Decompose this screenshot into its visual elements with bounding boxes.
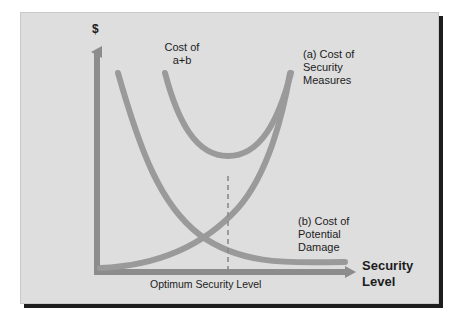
figure-root: $ Security Level Cost of a+b (a) Cost of…	[0, 0, 466, 320]
label-cost-of-a-plus-b: Cost of a+b	[140, 41, 224, 67]
label-optimum-security-level: Optimum Security Level	[150, 278, 261, 290]
label-cost-of-potential-damage: (b) Cost of Potential Damage	[298, 215, 396, 254]
x-axis-label: Security Level	[362, 258, 413, 289]
y-axis-label: $	[92, 22, 99, 36]
label-cost-of-security-measures: (a) Cost of Security Measures	[303, 48, 401, 87]
